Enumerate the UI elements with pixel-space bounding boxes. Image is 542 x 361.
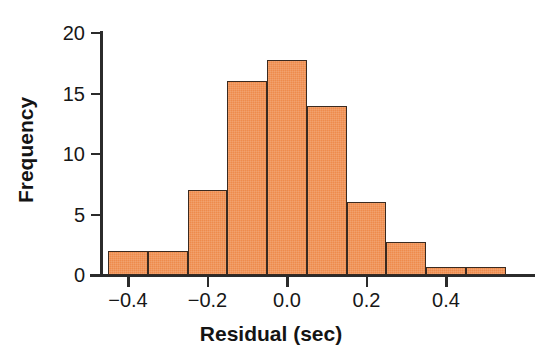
histogram-bar <box>347 202 387 275</box>
histogram-bar <box>466 267 506 275</box>
x-tick-label: −0.2 <box>168 289 248 312</box>
histogram-bar <box>386 242 426 275</box>
histogram-bar <box>108 251 148 275</box>
x-axis-label: Residual (sec) <box>0 322 542 346</box>
x-tick-label: 0.0 <box>247 289 327 312</box>
plot-area <box>109 20 507 276</box>
x-tick-mark <box>445 276 448 287</box>
x-axis-tick-labels: −0.4−0.20.00.20.4 <box>0 289 542 317</box>
x-tick-mark <box>207 276 210 287</box>
histogram-bar <box>227 81 267 275</box>
x-axis-tick-marks <box>0 276 542 288</box>
x-tick-label: 0.2 <box>327 289 407 312</box>
x-tick-mark <box>127 276 130 287</box>
y-tick-label: 5 <box>30 203 85 226</box>
y-tick-mark <box>91 153 100 155</box>
y-tick-mark <box>91 214 100 216</box>
x-tick-label: −0.4 <box>88 289 168 312</box>
histogram-bar <box>188 190 228 275</box>
histogram-figure: Frequency 05101520 −0.4−0.20.00.20.4 Res… <box>0 0 542 361</box>
y-tick-label: 15 <box>30 82 85 105</box>
histogram-bar <box>307 106 347 275</box>
y-axis-line <box>100 31 103 276</box>
y-tick-label: 10 <box>30 143 85 166</box>
x-tick-mark <box>366 276 369 287</box>
y-tick-label: 20 <box>30 22 85 45</box>
y-tick-mark <box>91 32 100 34</box>
histogram-bar <box>426 267 466 275</box>
x-tick-mark <box>286 276 289 287</box>
y-tick-mark <box>91 93 100 95</box>
x-tick-label: 0.4 <box>406 289 486 312</box>
histogram-bar <box>148 251 188 275</box>
histogram-bar <box>267 60 307 275</box>
